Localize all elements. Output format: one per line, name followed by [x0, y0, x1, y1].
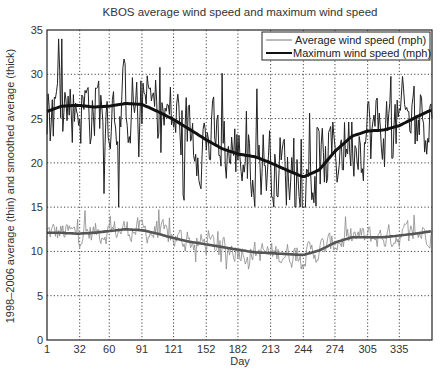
y-tick-label: 0 [37, 334, 43, 346]
x-tick-label: 335 [390, 343, 408, 355]
chart-title: KBOS average wind speed and maximum wind… [103, 6, 378, 18]
x-tick-label: 305 [358, 343, 376, 355]
x-axis-label: Day [230, 355, 250, 367]
y-axis-label: 1998–2006 average (thin) and smoothed av… [4, 49, 16, 324]
grid-lines [47, 30, 432, 340]
legend-max-label: Maximum wind speed (mph) [293, 47, 431, 59]
y-tick-label: 20 [31, 157, 43, 169]
x-tick-label: 213 [261, 343, 279, 355]
x-tick-label: 32 [74, 343, 86, 355]
x-tick-label: 1 [44, 343, 50, 355]
x-tick-label: 152 [197, 343, 215, 355]
x-tick-label: 182 [229, 343, 247, 355]
x-tick-label: 121 [164, 343, 182, 355]
legend: Average wind speed (mph) Maximum wind sp… [262, 32, 431, 60]
plot-frame [47, 30, 432, 340]
avg-daily-line [47, 210, 432, 270]
plot-series [47, 39, 432, 269]
y-tick-label: 10 [31, 245, 43, 257]
y-tick-label: 35 [31, 24, 43, 36]
legend-avg-label: Average wind speed (mph) [295, 34, 426, 46]
axis-ticks: 1326091121152182213244274305335051015202… [31, 24, 409, 355]
x-tick-label: 244 [294, 343, 312, 355]
x-tick-label: 91 [136, 343, 148, 355]
chart: KBOS average wind speed and maximum wind… [0, 0, 448, 383]
avg-smoothed-line [47, 229, 431, 255]
x-tick-label: 274 [326, 343, 344, 355]
y-tick-label: 5 [37, 290, 43, 302]
max-daily-line [47, 39, 432, 207]
y-tick-label: 25 [31, 113, 43, 125]
y-tick-label: 15 [31, 201, 43, 213]
y-tick-label: 30 [31, 68, 43, 80]
x-tick-label: 60 [103, 343, 115, 355]
